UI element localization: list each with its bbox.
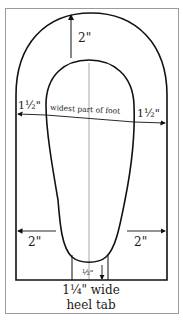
heel-gap-label: ½" — [82, 268, 93, 277]
left-lower-label: 2" — [28, 235, 41, 249]
left-width-label: 1½" — [18, 99, 41, 112]
widest-label: widest part of foot — [50, 103, 120, 116]
top-margin-label: 2" — [78, 31, 91, 45]
sole-pattern-diagram: 2" 1½" widest part of foot 1½" 2" 2" ½" … — [0, 0, 183, 320]
widest-arrow-line — [46, 115, 134, 122]
right-width-label: 1½" — [137, 107, 160, 120]
heel-tab-caption-1: 1¼" wide — [62, 283, 120, 297]
widest-arrow-right — [134, 122, 165, 123]
heel-tab-caption-2: heel tab — [66, 298, 116, 312]
right-lower-label: 2" — [134, 235, 147, 249]
widest-arrow-left — [18, 114, 46, 115]
foot-outline — [46, 60, 134, 262]
